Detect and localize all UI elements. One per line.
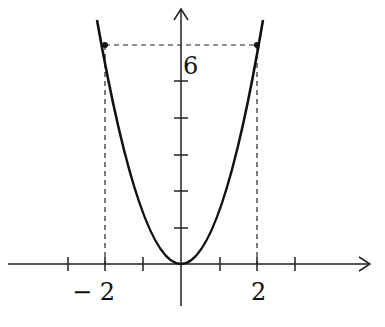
point-neg2-6 [102, 42, 108, 48]
x-label-neg2: − 2 [72, 278, 115, 306]
parabola-chart: − 2 2 6 [0, 0, 385, 327]
y-label-6: 6 [183, 52, 198, 80]
point-2-6 [254, 42, 260, 48]
x-label-2: 2 [251, 278, 266, 306]
